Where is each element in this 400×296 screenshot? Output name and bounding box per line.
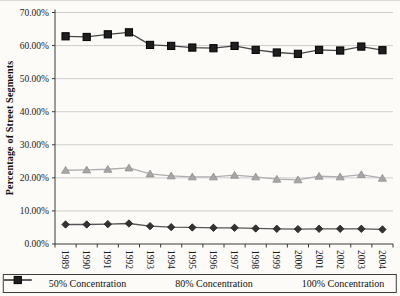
svg-text:1990: 1990	[81, 250, 91, 269]
svg-text:60.00%: 60.00%	[20, 41, 49, 51]
svg-text:1993: 1993	[145, 250, 155, 269]
legend-item-100-concentration: 100% Concentration	[269, 278, 384, 289]
legend-label: 80% Concentration	[175, 278, 252, 289]
svg-text:2001: 2001	[314, 250, 324, 269]
svg-text:1994: 1994	[166, 250, 176, 269]
svg-text:30.00%: 30.00%	[20, 140, 49, 150]
svg-text:1989: 1989	[60, 250, 70, 269]
line-chart: 70.00%60.00%50.00%40.00%30.00%20.00%10.0…	[0, 1, 400, 269]
svg-text:2000: 2000	[293, 250, 303, 269]
svg-text:50.00%: 50.00%	[20, 74, 49, 84]
svg-text:20.00%: 20.00%	[20, 173, 49, 183]
svg-text:40.00%: 40.00%	[20, 107, 49, 117]
chart-figure: Percentage of Street Segments 70.00%60.0…	[0, 0, 400, 296]
svg-text:1996: 1996	[208, 250, 218, 269]
legend-item-80-concentration: 80% Concentration	[142, 278, 252, 289]
chart-legend: 50% Concentration 80% Concentration 100%…	[3, 274, 397, 293]
svg-text:0.00%: 0.00%	[24, 239, 49, 249]
svg-text:2004: 2004	[377, 250, 387, 269]
svg-text:70.00%: 70.00%	[20, 8, 49, 18]
legend-item-50-concentration: 50% Concentration	[16, 278, 126, 289]
svg-text:1992: 1992	[124, 250, 134, 269]
svg-text:2002: 2002	[335, 250, 345, 269]
svg-text:10.00%: 10.00%	[20, 206, 49, 216]
legend-label: 50% Concentration	[49, 278, 126, 289]
svg-text:1999: 1999	[271, 250, 281, 269]
svg-text:2003: 2003	[356, 250, 366, 269]
svg-text:1997: 1997	[229, 250, 239, 269]
triangle-marker-icon	[142, 279, 170, 289]
legend-label: 100% Concentration	[302, 278, 384, 289]
svg-text:1998: 1998	[250, 250, 260, 269]
square-marker-icon	[269, 279, 297, 289]
svg-text:1995: 1995	[187, 250, 197, 269]
svg-text:1991: 1991	[102, 250, 112, 269]
